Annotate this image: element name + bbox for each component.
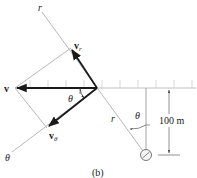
r-line-label: r (111, 113, 115, 124)
theta-angle-label-origin: θ (68, 93, 73, 104)
figure-caption: (b) (92, 167, 104, 178)
theta-angle-label-target: θ (135, 110, 140, 121)
vtheta-label: vθ (49, 130, 58, 143)
ground-reference-line (15, 80, 196, 88)
theta-axis-label: θ (5, 152, 10, 163)
vtheta-vector-arrow (49, 88, 97, 126)
vr-label: vr (74, 40, 82, 53)
v-label: v (4, 83, 9, 94)
target-object-icon (141, 150, 152, 161)
parallelogram-line-top (15, 48, 71, 88)
vr-vector-arrow (72, 50, 97, 88)
height-dimension-label: 100 m (159, 115, 185, 126)
parallelogram-line-bottom (15, 88, 47, 128)
theta-angle-arc-target (130, 125, 146, 129)
polar-velocity-diagram: r vr v θ vθ θ r θ 100 m (b) (0, 0, 197, 178)
theta-angle-arc-origin (80, 88, 84, 98)
r-axis-label: r (38, 2, 42, 13)
